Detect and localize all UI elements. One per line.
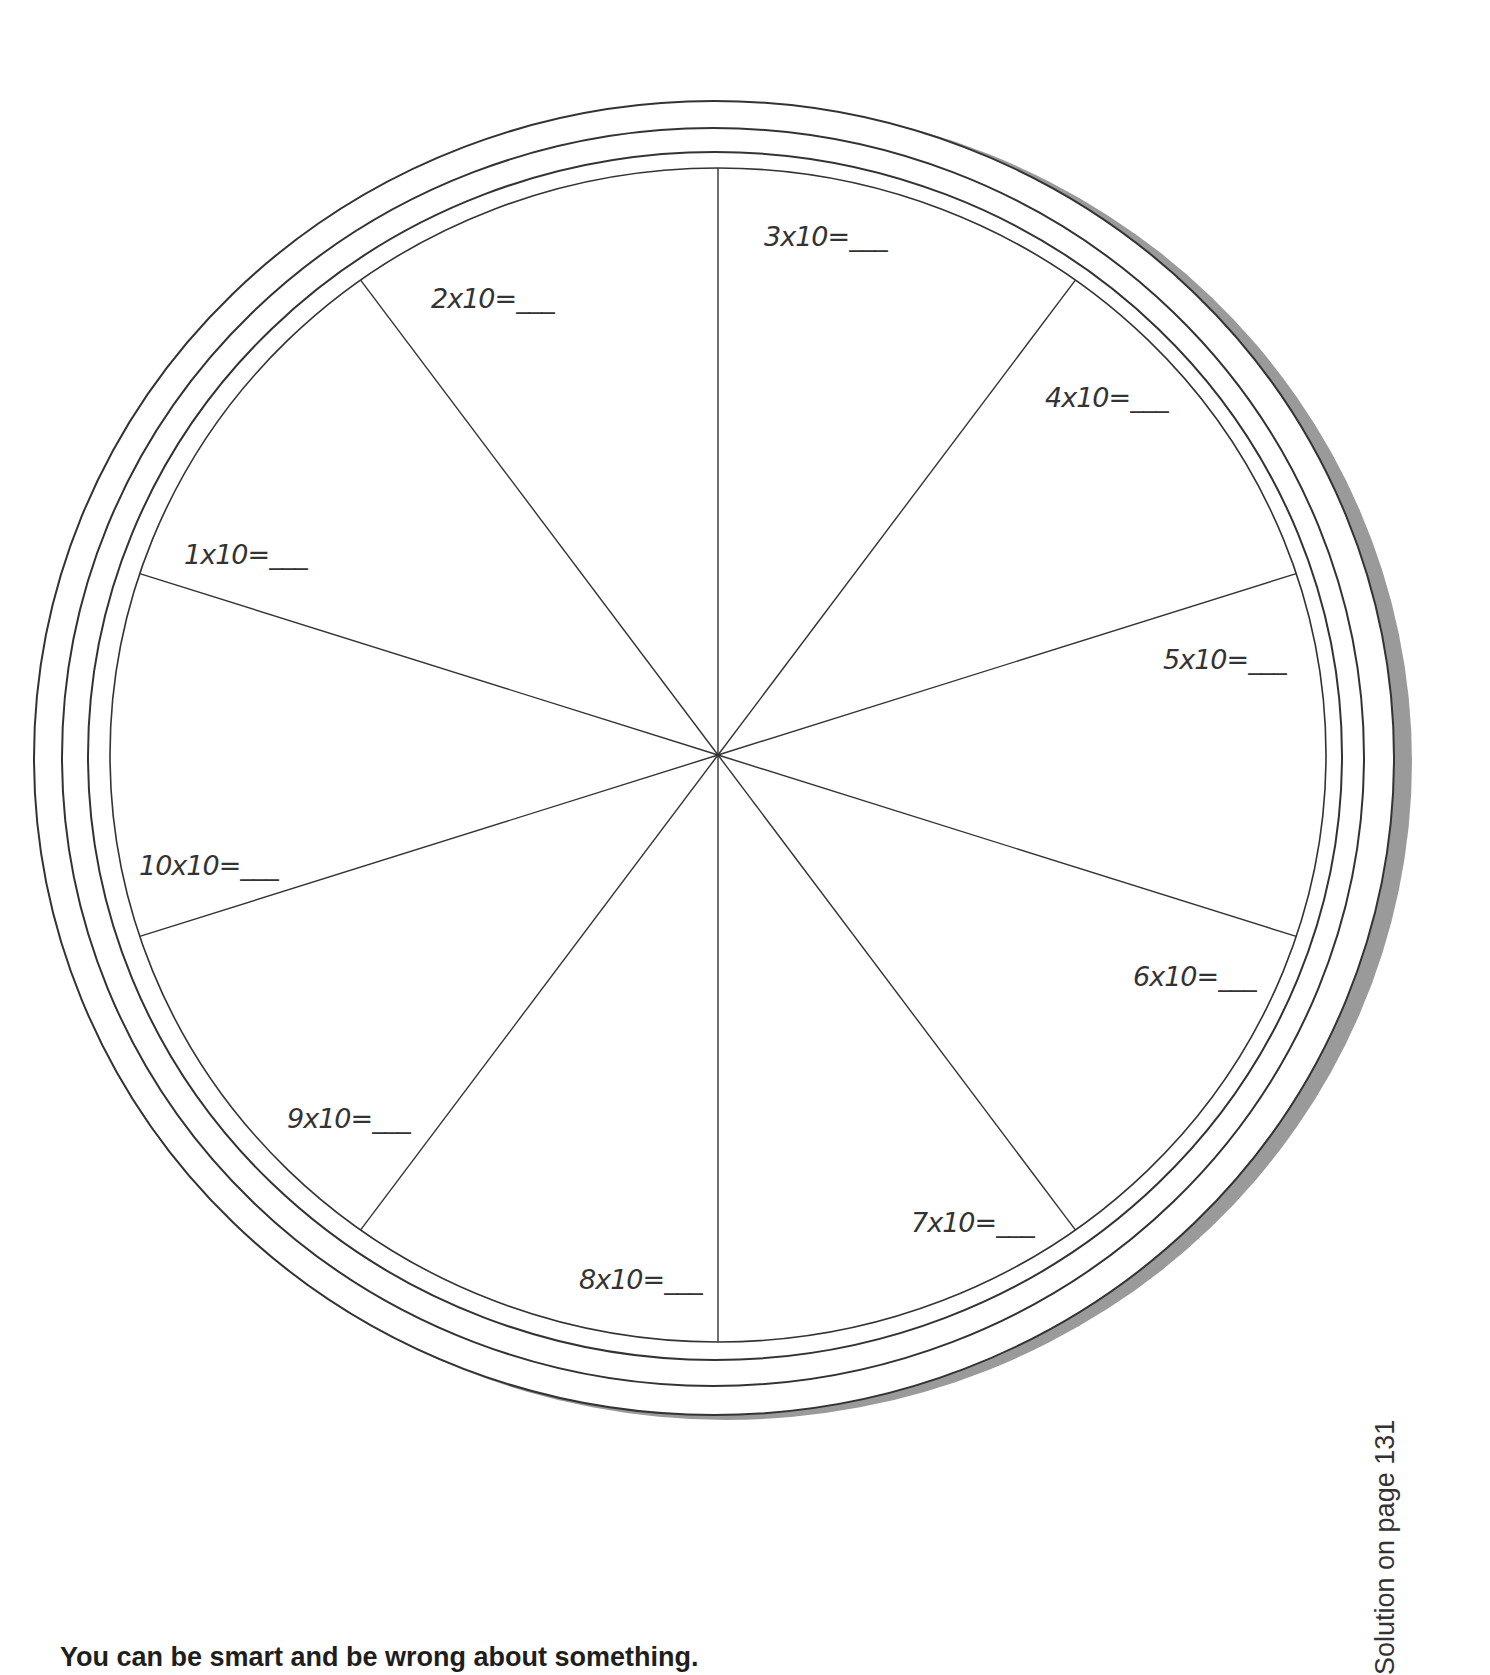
segment-label: 4x10=___ bbox=[1045, 382, 1168, 413]
solution-note: Solution on page 131 bbox=[1370, 1420, 1401, 1675]
segment-label: 6x10=___ bbox=[1133, 961, 1256, 992]
segment-label: 5x10=___ bbox=[1163, 644, 1286, 675]
segment-label: 1x10=___ bbox=[184, 539, 307, 570]
segment-label: 10x10=___ bbox=[139, 850, 278, 881]
outer-ring bbox=[34, 101, 1394, 1415]
segment-label: 7x10=___ bbox=[911, 1207, 1034, 1238]
segment-label: 3x10=___ bbox=[764, 221, 887, 252]
segment-label: 9x10=___ bbox=[287, 1103, 410, 1134]
multiplication-wheel bbox=[0, 0, 1490, 1675]
segment-label: 8x10=___ bbox=[579, 1264, 702, 1295]
segment-label: 2x10=___ bbox=[431, 283, 554, 314]
quote-text: You can be smart and be wrong about some… bbox=[60, 1642, 699, 1673]
